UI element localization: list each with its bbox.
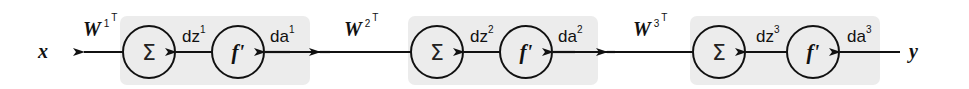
f-prime-symbol: f' bbox=[807, 40, 820, 64]
f-prime-symbol: f' bbox=[520, 40, 533, 64]
input-label-y: y bbox=[907, 40, 918, 63]
sum-symbol: Σ bbox=[142, 40, 156, 65]
sum-symbol: Σ bbox=[712, 40, 726, 65]
weight-label-1: W1T bbox=[83, 12, 117, 40]
backprop-diagram: Σ f' Σ f' Σ f' dz1 da1 dz2 da2 dz3 da3 W… bbox=[0, 0, 969, 89]
weight-label-2: W2T bbox=[344, 12, 378, 40]
weight-label-3: W3T bbox=[633, 12, 667, 40]
output-label-x: x bbox=[37, 40, 48, 62]
f-prime-symbol: f' bbox=[232, 40, 245, 64]
sum-symbol: Σ bbox=[430, 40, 444, 65]
